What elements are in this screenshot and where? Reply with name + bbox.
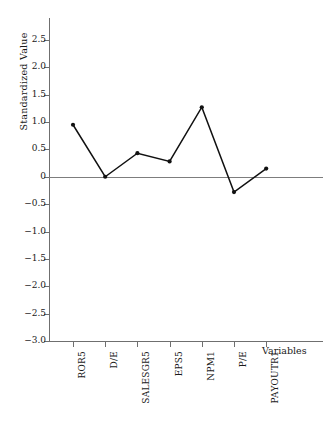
y-axis-title: Standardized Value — [18, 12, 29, 152]
figure-caption — [6, 419, 324, 428]
data-point-marker — [71, 123, 75, 127]
y-tick-label: −1.0 — [24, 226, 46, 236]
x-tick-label: ROR5 — [77, 351, 87, 378]
y-tick-label: −2.0 — [24, 280, 46, 290]
x-tick-label: P/E — [238, 351, 248, 367]
y-tick-label: 1.5 — [32, 89, 46, 99]
y-tick-label: 0.5 — [32, 143, 46, 153]
data-point-marker — [232, 190, 236, 194]
x-axis-title: Variables — [262, 345, 307, 356]
y-tick-label: −3.0 — [24, 335, 46, 345]
data-point-marker — [168, 159, 172, 163]
x-tick-label: D/E — [109, 351, 119, 368]
y-tick-label: 2.5 — [32, 34, 46, 44]
data-point-marker — [264, 166, 268, 170]
data-series-line — [49, 18, 323, 348]
chart-figure: Standardized Value 2.52.01.51.00.50−0.5−… — [0, 0, 329, 428]
x-tick-label: EPS5 — [174, 351, 184, 376]
y-tick-label: 0 — [40, 171, 46, 181]
x-tick-label: SALESGR5 — [141, 351, 151, 404]
series-polyline — [73, 107, 266, 192]
data-point-marker — [200, 105, 204, 109]
y-tick-label: −2.5 — [24, 308, 46, 318]
data-point-marker — [135, 151, 139, 155]
x-tick-label: NPM1 — [206, 351, 216, 381]
data-point-marker — [103, 175, 107, 179]
y-tick-label: 2.0 — [32, 61, 46, 71]
x-tick-label: PAYOUTR1 — [270, 351, 280, 403]
plot-area: 2.52.01.51.00.50−0.5−1.0−1.5−2.0−2.5−3.0… — [49, 18, 323, 341]
y-tick-label: −1.5 — [24, 253, 46, 263]
y-tick-label: 1.0 — [32, 116, 46, 126]
y-tick-label: −0.5 — [24, 198, 46, 208]
